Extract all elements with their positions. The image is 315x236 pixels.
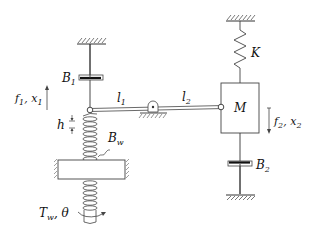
mass-joint — [218, 104, 224, 110]
pitch-dimension-h — [69, 115, 75, 134]
label-l1: l1 — [117, 91, 126, 107]
mechanical-system-diagram: B1 f1, x1 l1 l2 — [0, 0, 315, 236]
worm-screw-upper — [83, 113, 97, 161]
worm-nut-plate — [54, 159, 129, 179]
ground-top-left — [77, 38, 106, 44]
label-tw-theta: Tw, θ — [39, 206, 70, 222]
label-h: h — [57, 118, 65, 132]
label-b2: B2 — [255, 158, 270, 174]
ground-bottom-right — [226, 195, 255, 200]
arrow-up-icon — [45, 85, 49, 110]
label-f1-x1: f1, x1 — [14, 92, 42, 107]
label-bw: Bw — [107, 131, 124, 147]
rotation-arrow-icon — [78, 212, 106, 217]
damper-b2 — [228, 161, 252, 194]
spring-k — [234, 21, 246, 83]
lever-left-joint — [87, 107, 93, 113]
arrow-down-icon — [267, 108, 271, 134]
ground-top-right — [226, 15, 255, 21]
label-k: K — [250, 46, 261, 60]
label-b1: B1 — [61, 71, 76, 87]
bw-leader-line — [98, 150, 110, 157]
damper-b1 — [79, 44, 103, 80]
label-f2-x2: f2, x2 — [273, 115, 301, 130]
label-m: M — [233, 101, 247, 115]
label-l2: l2 — [182, 90, 191, 106]
